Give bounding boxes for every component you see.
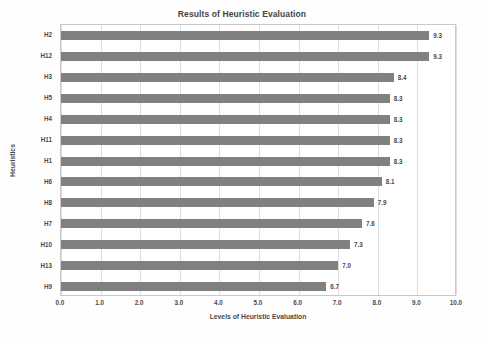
bar-value-label: 8.4 xyxy=(398,74,407,81)
x-tick-label: 7.0 xyxy=(333,299,342,306)
y-tick-label: H11 xyxy=(41,136,52,143)
x-tick-label: 4.0 xyxy=(214,299,223,306)
bar-row: 7.0 xyxy=(61,260,455,272)
bar xyxy=(61,136,390,145)
bar-value-label: 8.3 xyxy=(394,137,403,144)
y-tick-label: H5 xyxy=(44,94,52,101)
bar-row: 8.3 xyxy=(61,92,455,104)
y-tick-label: H12 xyxy=(40,52,52,59)
bar-value-label: 7.0 xyxy=(342,262,351,269)
bar xyxy=(61,31,429,40)
x-tick-label: 2.0 xyxy=(135,299,144,306)
bar xyxy=(61,73,394,82)
bar-row: 8.1 xyxy=(61,176,455,188)
bar-value-label: 8.3 xyxy=(394,95,403,102)
bar xyxy=(61,157,390,166)
bar-value-label: 9.3 xyxy=(433,53,442,60)
y-tick-label: H2 xyxy=(44,31,52,38)
bar xyxy=(61,282,326,291)
chart-title: Results of Heuristic Evaluation xyxy=(0,9,484,19)
y-tick-label: H4 xyxy=(44,115,52,122)
bar-row: 6.7 xyxy=(61,281,455,293)
y-tick-label: H7 xyxy=(44,219,52,226)
plot-area: 9.39.38.48.38.38.38.38.17.97.67.37.06.7 xyxy=(60,24,456,296)
bar-row: 7.6 xyxy=(61,218,455,230)
y-tick-label: H1 xyxy=(44,157,52,164)
gridline xyxy=(456,25,457,295)
bar-value-label: 8.3 xyxy=(394,158,403,165)
bar-value-label: 7.3 xyxy=(354,241,363,248)
bar xyxy=(61,115,390,124)
y-axis-tick-labels: H2H12H3H5H4H11H1H6H8H7H10H13H9 xyxy=(0,24,56,296)
x-tick-label: 8.0 xyxy=(372,299,381,306)
chart-figure: Results of Heuristic Evaluation Heuristi… xyxy=(0,0,484,342)
bar-row: 9.3 xyxy=(61,29,455,41)
y-tick-label: H8 xyxy=(44,198,52,205)
bar-value-label: 8.1 xyxy=(386,178,395,185)
bar-value-label: 6.7 xyxy=(330,283,339,290)
x-tick-label: 9.0 xyxy=(412,299,421,306)
bar-row: 9.3 xyxy=(61,50,455,62)
y-tick-label: H10 xyxy=(40,240,52,247)
x-axis-title: Levels of Heuristic Evaluation xyxy=(60,313,456,320)
x-axis-tick-labels: 0.01.02.03.04.05.06.07.08.09.010.0 xyxy=(60,299,456,311)
bars-layer: 9.39.38.48.38.38.38.38.17.97.67.37.06.7 xyxy=(61,25,455,295)
bar xyxy=(61,94,390,103)
x-tick-label: 1.0 xyxy=(95,299,104,306)
x-tick-label: 0.0 xyxy=(56,299,65,306)
y-tick-label: H9 xyxy=(44,282,52,289)
y-tick-label: H3 xyxy=(44,73,52,80)
x-tick-label: 6.0 xyxy=(293,299,302,306)
bar-row: 7.3 xyxy=(61,239,455,251)
bar xyxy=(61,261,338,270)
bar-value-label: 7.9 xyxy=(378,199,387,206)
y-tick-label: H6 xyxy=(44,177,52,184)
bar-row: 8.3 xyxy=(61,155,455,167)
bar-value-label: 8.3 xyxy=(394,116,403,123)
bar xyxy=(61,240,350,249)
x-tick-label: 5.0 xyxy=(254,299,263,306)
bar-value-label: 7.6 xyxy=(366,220,375,227)
bar xyxy=(61,198,374,207)
bar xyxy=(61,177,382,186)
bar-row: 8.3 xyxy=(61,113,455,125)
y-tick-label: H13 xyxy=(40,261,52,268)
bar-row: 8.4 xyxy=(61,71,455,83)
bar-row: 8.3 xyxy=(61,134,455,146)
x-tick-label: 3.0 xyxy=(174,299,183,306)
bar xyxy=(61,52,429,61)
bar-value-label: 9.3 xyxy=(433,32,442,39)
bar-row: 7.9 xyxy=(61,197,455,209)
bar xyxy=(61,219,362,228)
x-tick-label: 10.0 xyxy=(450,299,462,306)
